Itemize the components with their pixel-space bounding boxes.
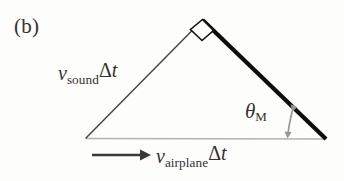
label-airplane-subscript: airplane bbox=[165, 155, 208, 170]
panel-label: (b) bbox=[14, 16, 39, 37]
figure-panel-b: (b) vsoundΔt vairplaneΔt θM bbox=[0, 0, 344, 181]
label-airplane-variable: v bbox=[156, 145, 165, 167]
right-angle-marker-icon bbox=[191, 20, 214, 41]
label-sound-distance: vsoundΔt bbox=[58, 60, 117, 86]
label-mach-angle-symbol: θ bbox=[245, 99, 255, 123]
label-airplane-delta: Δ bbox=[208, 142, 221, 164]
velocity-direction-arrow-icon bbox=[92, 150, 151, 161]
label-sound-delta-t: Δt bbox=[99, 60, 117, 80]
label-sound-subscript: sound bbox=[67, 72, 99, 87]
triangle-base-edge bbox=[86, 139, 326, 140]
label-airplane-t: t bbox=[221, 142, 227, 164]
label-sound-delta: Δ bbox=[99, 59, 112, 81]
label-airplane-distance: vairplaneΔt bbox=[156, 143, 227, 169]
label-mach-angle: θM bbox=[245, 101, 267, 123]
label-mach-angle-subscript: M bbox=[255, 109, 267, 124]
label-sound-variable: v bbox=[58, 62, 67, 84]
label-sound-t: t bbox=[112, 59, 118, 81]
label-airplane-delta-t: Δt bbox=[208, 143, 226, 163]
